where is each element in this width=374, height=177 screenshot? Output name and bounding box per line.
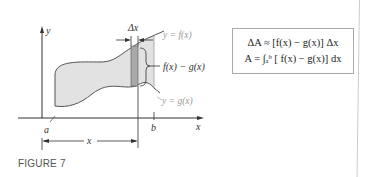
a-label: a [44, 124, 49, 135]
figure-caption: FIGURE 7 [18, 158, 66, 169]
y-axis-label: y [45, 25, 51, 36]
upper-curve-label: y = f(x) [162, 30, 192, 41]
area-between-curves-figure: y x a b x Δx y = f(x) y = g(x) f(x) − g(… [0, 0, 374, 177]
lower-curve-label: y = g(x) [161, 96, 193, 107]
formula-box: ΔA ≈ [f(x) − g(x)] Δx A = ∫ₐᵇ [ f(x) − g… [232, 28, 354, 74]
delta-x-strip [131, 46, 138, 86]
delta-x-label: Δx [127, 22, 139, 33]
x-span-label: x [86, 135, 92, 146]
x-axis-label: x [195, 121, 201, 132]
area-diagram: y x a b x Δx y = f(x) y = g(x) f(x) − g(… [0, 0, 374, 177]
shaded-region [55, 35, 154, 107]
formula-area-integral: A = ∫ₐᵇ [ f(x) − g(x)] dx [233, 53, 353, 64]
height-label: f(x) − g(x) [163, 61, 205, 73]
b-label: b [151, 122, 156, 133]
formula-delta-area: ΔA ≈ [f(x) − g(x)] Δx [233, 37, 353, 48]
